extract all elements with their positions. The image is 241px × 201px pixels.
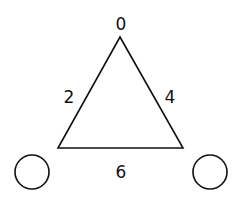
label-top: 0 <box>116 14 127 34</box>
label-left: 2 <box>64 87 75 107</box>
left-circle <box>15 155 49 189</box>
label-bottom: 6 <box>116 162 127 182</box>
diagram-canvas: 0 2 4 6 <box>0 0 241 201</box>
label-right: 4 <box>165 87 176 107</box>
right-circle <box>193 155 227 189</box>
